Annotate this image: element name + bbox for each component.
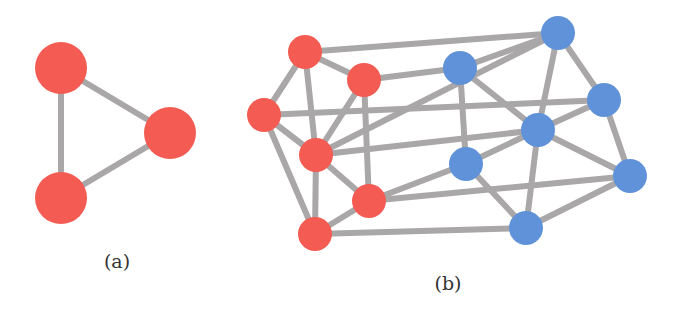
- node-R6-red: [298, 217, 332, 251]
- panel-b-two-community-graph: (b): [247, 16, 647, 294]
- node-R1-red: [288, 35, 322, 69]
- node-R5-red: [352, 184, 386, 218]
- node-a3-red: [35, 172, 87, 224]
- edge-R3-B3: [264, 100, 604, 115]
- node-B2-blue: [443, 51, 477, 85]
- node-a1-red: [35, 42, 87, 94]
- node-R3-red: [247, 98, 281, 132]
- panel-a-triangle-graph: (a): [35, 42, 196, 272]
- panel-a-label: (a): [104, 250, 130, 272]
- node-a2-red: [144, 107, 196, 159]
- node-R2-red: [347, 63, 381, 97]
- node-B3-blue: [587, 83, 621, 117]
- node-B6-blue: [613, 159, 647, 193]
- node-B1-blue: [541, 16, 575, 50]
- node-B7-blue: [509, 211, 543, 245]
- node-B4-blue: [521, 113, 555, 147]
- edge-R6-B7: [315, 228, 526, 234]
- node-B5-blue: [449, 147, 483, 181]
- panel-b-label: (b): [435, 272, 462, 294]
- edge-R2-R5: [364, 80, 369, 201]
- node-R4-red: [299, 138, 333, 172]
- network-diagram: (a) (b): [0, 0, 684, 315]
